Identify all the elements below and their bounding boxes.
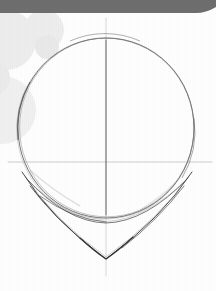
header-bar <box>0 0 216 13</box>
drawing-page <box>0 0 216 291</box>
sketch-canvas <box>0 0 216 291</box>
